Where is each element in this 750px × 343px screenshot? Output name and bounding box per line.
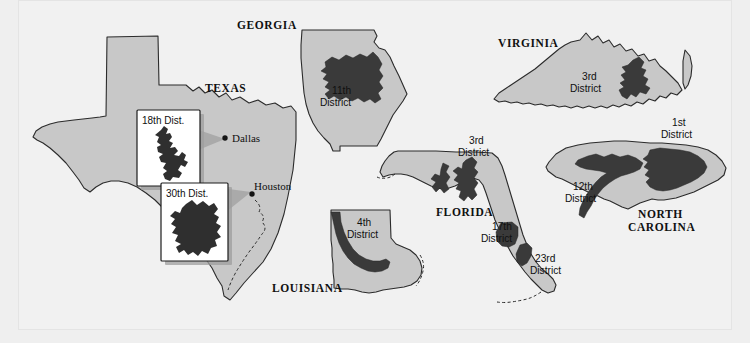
- city-dot-dallas: [222, 135, 227, 140]
- district-label-fl-23rd-number: 23rd: [535, 253, 556, 264]
- inset-18th-district[interactable]: 18th Dist.: [137, 110, 204, 190]
- district-label-fl-23rd-word: District: [530, 265, 561, 276]
- state-north-carolina[interactable]: NORTH CAROLINA 1st District 12th Distric…: [546, 117, 726, 233]
- state-virginia[interactable]: VIRGINIA 3rd District: [494, 33, 692, 108]
- inset-18th-label: 18th Dist.: [142, 115, 184, 126]
- map-canvas: 18th Dist. 30th Dist. TEXAS Dallas Houst…: [0, 0, 750, 343]
- map-figure: 18th Dist. 30th Dist. TEXAS Dallas Houst…: [0, 0, 750, 343]
- state-texas[interactable]: 18th Dist. 30th Dist. TEXAS Dallas Houst…: [33, 36, 296, 300]
- state-louisiana[interactable]: LOUISIANA 4th District: [272, 210, 424, 294]
- district-label-nc-1st-number: 1st: [672, 117, 686, 128]
- state-label-florida: FLORIDA: [436, 206, 493, 218]
- district-label-fl-17th-word: District: [481, 233, 512, 244]
- florida-keys-detail: [497, 292, 541, 303]
- district-label-fl-17th-number: 17th: [492, 221, 512, 232]
- district-label-la-4th-number: 4th: [357, 217, 371, 228]
- district-label-nc-12th-number: 12th: [573, 181, 593, 192]
- state-label-texas: TEXAS: [205, 82, 246, 94]
- state-label-north-carolina-line1: NORTH: [638, 208, 683, 220]
- district-label-georgia-11th-number: 11th: [332, 85, 351, 96]
- state-label-virginia: VIRGINIA: [498, 37, 558, 49]
- inset-30th-label: 30th Dist.: [166, 188, 208, 199]
- district-label-nc-1st-word: District: [661, 129, 692, 140]
- district-label-fl-3rd-number: 3rd: [469, 135, 484, 146]
- state-label-louisiana: LOUISIANA: [272, 282, 343, 294]
- district-georgia-11th: [321, 52, 383, 103]
- district-label-virginia-3rd-word: District: [570, 83, 601, 94]
- district-label-la-4th-word: District: [347, 229, 378, 240]
- city-dot-houston: [249, 191, 254, 196]
- state-label-north-carolina-line2: CAROLINA: [628, 221, 696, 233]
- district-label-nc-12th-word: District: [565, 193, 596, 204]
- inset-30th-district[interactable]: 30th Dist.: [161, 183, 232, 265]
- city-label-dallas: Dallas: [232, 132, 260, 144]
- district-label-georgia-11th-word: District: [320, 97, 351, 108]
- virginia-eastern-shore: [683, 50, 692, 89]
- city-label-houston: Houston: [254, 180, 292, 192]
- district-label-virginia-3rd-number: 3rd: [582, 71, 597, 82]
- district-label-fl-3rd-word: District: [458, 147, 489, 158]
- state-label-georgia: GEORGIA: [237, 19, 297, 31]
